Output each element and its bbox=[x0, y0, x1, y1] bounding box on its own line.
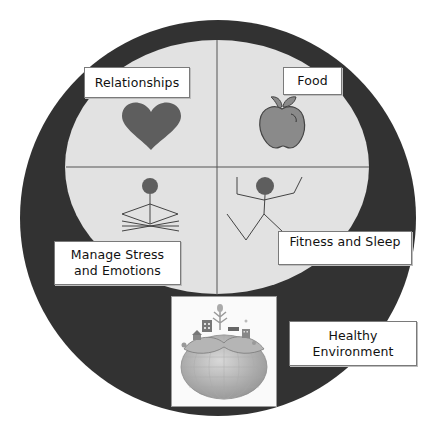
environment-picture bbox=[171, 296, 277, 407]
label-env-line-2: Environment bbox=[313, 344, 394, 360]
label-food: Food bbox=[283, 67, 342, 95]
label-stress-line-1: Manage Stress bbox=[71, 247, 164, 263]
label-fitness-text: Fitness and Sleep bbox=[289, 234, 400, 250]
label-relationships-text: Relationships bbox=[95, 75, 180, 91]
label-stress-line-2: and Emotions bbox=[74, 263, 161, 279]
label-manage-stress: Manage Stress and Emotions bbox=[54, 241, 181, 285]
label-food-text: Food bbox=[297, 73, 327, 89]
wellness-diagram: Relationships Food Manage Stress and Emo… bbox=[0, 0, 437, 432]
label-env-line-1: Healthy bbox=[328, 328, 377, 344]
label-fitness-sleep: Fitness and Sleep bbox=[278, 231, 412, 265]
label-healthy-environment: Healthy Environment bbox=[289, 321, 417, 366]
label-relationships: Relationships bbox=[84, 67, 190, 98]
earth-with-city-icon bbox=[172, 297, 276, 406]
